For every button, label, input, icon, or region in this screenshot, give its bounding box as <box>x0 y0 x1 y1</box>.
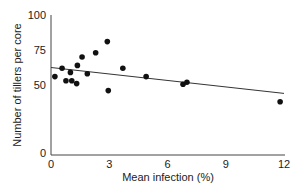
x-tick-label: 6 <box>164 158 170 170</box>
data-point <box>69 78 75 84</box>
x-axis-label: Mean infection (%) <box>122 171 214 183</box>
data-point <box>68 70 74 76</box>
x-tick-label: 0 <box>48 158 54 170</box>
x-tick-label: 3 <box>106 158 112 170</box>
data-point <box>75 63 81 69</box>
y-tick-label: 75 <box>34 44 46 56</box>
data-point <box>105 88 111 94</box>
y-tick-label: 100 <box>28 9 46 21</box>
data-point <box>74 81 80 87</box>
x-tick-labels: 036912 <box>48 158 290 170</box>
data-point <box>105 39 111 45</box>
x-tick-label: 12 <box>278 158 290 170</box>
data-point <box>143 74 149 80</box>
y-tick-label: 0 <box>40 147 46 159</box>
x-tick-label: 9 <box>223 158 229 170</box>
data-point <box>85 71 91 77</box>
axes <box>51 15 285 155</box>
scatter-chart: 05075100 036912 Mean infection (%) Numbe… <box>0 0 303 191</box>
data-point <box>184 79 190 85</box>
data-point <box>59 65 65 71</box>
y-tick-labels: 05075100 <box>28 9 46 159</box>
y-axis-label: Number of tillers per core <box>11 23 23 147</box>
data-point <box>93 50 99 56</box>
data-points <box>52 39 283 105</box>
data-point <box>120 65 126 71</box>
data-point <box>63 78 69 84</box>
y-tick-label: 50 <box>34 79 46 91</box>
data-point <box>52 74 58 80</box>
data-point <box>79 54 85 60</box>
data-point <box>277 99 283 105</box>
